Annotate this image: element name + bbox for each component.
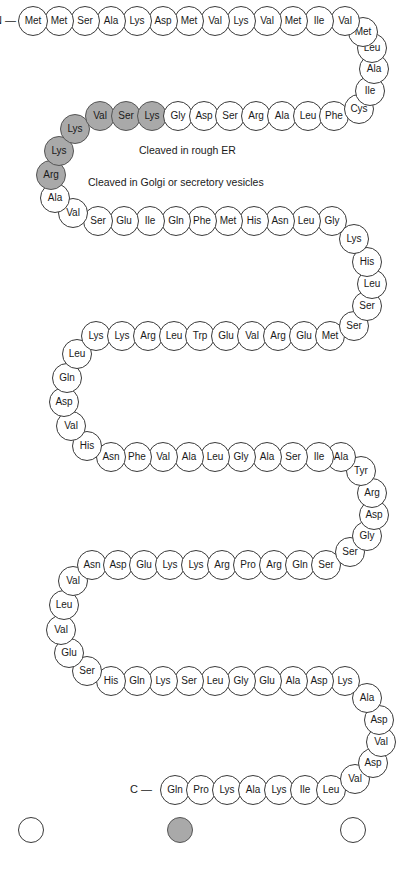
residue-label: Lys	[144, 111, 159, 121]
residue-label: Gly	[325, 216, 340, 226]
residue-label: Phe	[325, 111, 343, 121]
residue-label: Ser	[90, 216, 106, 226]
residue-label: Lys	[337, 676, 352, 686]
residue-circle: Met	[44, 6, 74, 36]
residue-circle: Lys	[226, 6, 256, 36]
residue-label: Asn	[83, 560, 100, 570]
residue-circle: Met	[174, 6, 204, 36]
residue-label: Asp	[364, 758, 381, 768]
residue-circle: Ala	[252, 442, 282, 472]
residue-label: Val	[93, 111, 107, 121]
residue-label: Glu	[218, 331, 234, 341]
residue-label: Asn	[102, 452, 119, 462]
residue-label: Phe	[193, 216, 211, 226]
residue-label: Ile	[314, 16, 325, 26]
residue-circle: Gly	[226, 666, 256, 696]
protein-sequence-diagram: N — C — MetMetSerAlaLysAspMetValLysValMe…	[0, 0, 402, 879]
residue-label: Asp	[55, 397, 72, 407]
cleavage-annotation: Cleaved in Golgi or secretory vesicles	[88, 176, 264, 188]
residue-label: Val	[54, 625, 68, 635]
residue-circle: Gln	[122, 666, 152, 696]
residue-label: Ser	[318, 560, 334, 570]
residue-label: Ser	[79, 666, 95, 676]
residue-label: Gln	[129, 676, 145, 686]
residue-circle: Lys	[148, 666, 178, 696]
residue-label: Ala	[334, 452, 348, 462]
residue-label: Val	[260, 16, 274, 26]
residue-circle: Leu	[200, 666, 230, 696]
residue-circle: Glu	[252, 666, 282, 696]
residue-label: Lys	[219, 785, 234, 795]
residue-circle: Met	[278, 6, 308, 36]
legend-swatch	[167, 817, 193, 843]
residue-label: Leu	[69, 349, 86, 359]
residue-label: Ala	[246, 785, 260, 795]
residue-label: Cys	[350, 104, 367, 114]
residue-circle: Met	[18, 6, 48, 36]
residue-label: Ile	[365, 86, 376, 96]
residue-circle: Lys	[122, 6, 152, 36]
residue-label: Glu	[116, 216, 132, 226]
residue-label: Arg	[214, 560, 230, 570]
residue-label: Leu	[207, 676, 224, 686]
residue-label: Gly	[234, 452, 249, 462]
residue-label: Ala	[260, 452, 274, 462]
residue-label: Ala	[182, 452, 196, 462]
residue-label: Asp	[310, 676, 327, 686]
residue-label: Gly	[171, 111, 186, 121]
residue-label: Ser	[77, 16, 93, 26]
residue-label: Arg	[140, 331, 156, 341]
residue-circle: Gln	[161, 206, 191, 236]
residue-label: Lys	[114, 331, 129, 341]
residue-circle: Lys	[330, 666, 360, 696]
residue-label: Arg	[364, 488, 380, 498]
residue-label: Val	[374, 737, 388, 747]
residue-circle: Ser	[278, 442, 308, 472]
residue-circle: Ser	[70, 6, 100, 36]
residue-label: Gln	[168, 216, 184, 226]
residue-circle: Val	[200, 6, 230, 36]
residue-label: Ser	[222, 111, 238, 121]
residue-label: Met	[181, 16, 198, 26]
residue-label: Pro	[240, 560, 256, 570]
residue-label: His	[80, 441, 94, 451]
residue-circle: Ala	[174, 442, 204, 472]
residue-label: Leu	[207, 452, 224, 462]
residue-circle: Gly	[317, 206, 347, 236]
residue-label: Ala	[275, 111, 289, 121]
residue-circle: Phe	[122, 442, 152, 472]
residue-label: Lys	[162, 560, 177, 570]
residue-circle: Glu	[109, 206, 139, 236]
residue-label: Lys	[88, 331, 103, 341]
residue-circle: Ala	[96, 6, 126, 36]
residue-label: Lys	[188, 560, 203, 570]
residue-label: Asp	[370, 715, 387, 725]
n-terminus-label: N —	[0, 14, 16, 26]
residue-label: Lys	[233, 16, 248, 26]
residue-label: Ser	[346, 321, 362, 331]
residue-label: Pro	[193, 785, 209, 795]
residue-label: Leu	[300, 111, 317, 121]
residue-label: Val	[66, 208, 80, 218]
residue-label: Ala	[104, 16, 118, 26]
residue-label: Gly	[360, 531, 375, 541]
residue-label: Val	[338, 16, 352, 26]
residue-label: Ile	[300, 785, 311, 795]
residue-label: Ser	[181, 676, 197, 686]
residue-label: Val	[156, 452, 170, 462]
residue-circle: His	[239, 206, 269, 236]
residue-label: Leu	[298, 216, 315, 226]
residue-label: Trp	[193, 331, 208, 341]
residue-label: Tyr	[354, 466, 368, 476]
residue-circle: Val	[252, 6, 282, 36]
residue-label: Ser	[118, 111, 134, 121]
residue-label: Arg	[43, 170, 59, 180]
residue-label: Met	[25, 16, 42, 26]
residue-circle: Ile	[135, 206, 165, 236]
residue-label: Ser	[342, 547, 358, 557]
legend-swatch	[340, 817, 366, 843]
residue-label: Glu	[296, 331, 312, 341]
residue-circle: Met	[213, 206, 243, 236]
residue-label: Asp	[195, 111, 212, 121]
residue-label: Val	[245, 331, 259, 341]
